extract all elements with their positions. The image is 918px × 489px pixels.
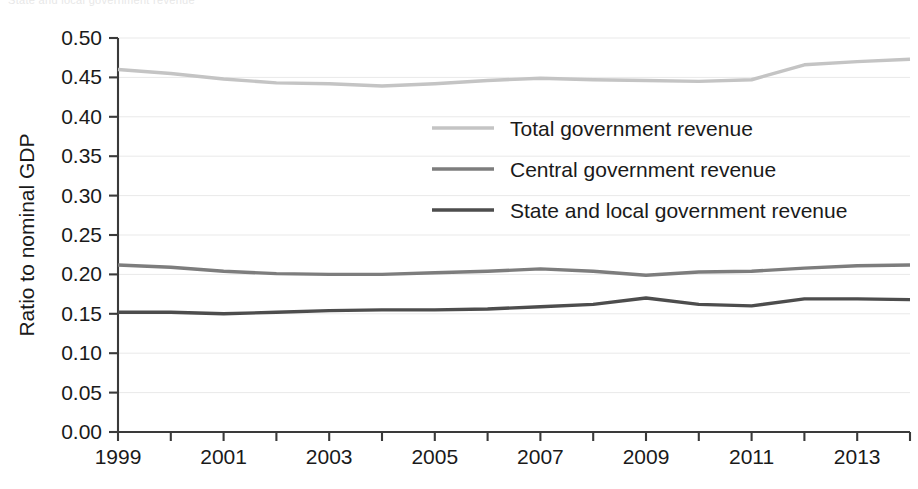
x-tick-label: 2013 xyxy=(834,445,881,468)
x-tick-label: 2007 xyxy=(517,445,564,468)
y-axis: 0.000.050.100.150.200.250.300.350.400.45… xyxy=(15,26,118,443)
series-line-1 xyxy=(118,265,910,275)
legend-label-0: Total government revenue xyxy=(510,117,753,140)
y-tick-label: 0.30 xyxy=(61,184,102,207)
x-tick-label: 2003 xyxy=(306,445,353,468)
x-axis: 19992001200320052007200920112013 xyxy=(95,432,910,468)
series-line-0 xyxy=(118,59,910,86)
y-tick-label: 0.50 xyxy=(61,26,102,49)
y-tick-label: 0.25 xyxy=(61,223,102,246)
y-tick-label: 0.10 xyxy=(61,341,102,364)
y-tick-label: 0.00 xyxy=(61,420,102,443)
x-tick-label: 2005 xyxy=(411,445,458,468)
x-tick-label: 1999 xyxy=(95,445,142,468)
x-tick-label: 2009 xyxy=(623,445,670,468)
y-tick-marks xyxy=(109,38,118,432)
x-tick-label: 2001 xyxy=(200,445,247,468)
y-tick-label: 0.05 xyxy=(61,381,102,404)
legend-label-2: State and local government revenue xyxy=(510,199,847,222)
line-chart: 0.000.050.100.150.200.250.300.350.400.45… xyxy=(0,0,918,489)
figure-container: State and local government revenue 0.000… xyxy=(0,0,918,489)
y-tick-label: 0.40 xyxy=(61,105,102,128)
x-tick-marks xyxy=(118,432,910,441)
y-axis-title: Ratio to nominal GDP xyxy=(15,133,38,336)
series-line-2 xyxy=(118,298,910,314)
chart-legend: Total government revenueCentral governme… xyxy=(432,117,847,222)
x-tick-labels: 19992001200320052007200920112013 xyxy=(95,445,881,468)
y-tick-label: 0.20 xyxy=(61,262,102,285)
legend-label-1: Central government revenue xyxy=(510,158,776,181)
y-tick-labels: 0.000.050.100.150.200.250.300.350.400.45… xyxy=(61,26,102,443)
x-tick-label: 2011 xyxy=(729,445,774,468)
y-tick-label: 0.45 xyxy=(61,65,102,88)
data-series-group xyxy=(118,59,910,314)
y-tick-label: 0.35 xyxy=(61,144,102,167)
y-tick-label: 0.15 xyxy=(61,302,102,325)
